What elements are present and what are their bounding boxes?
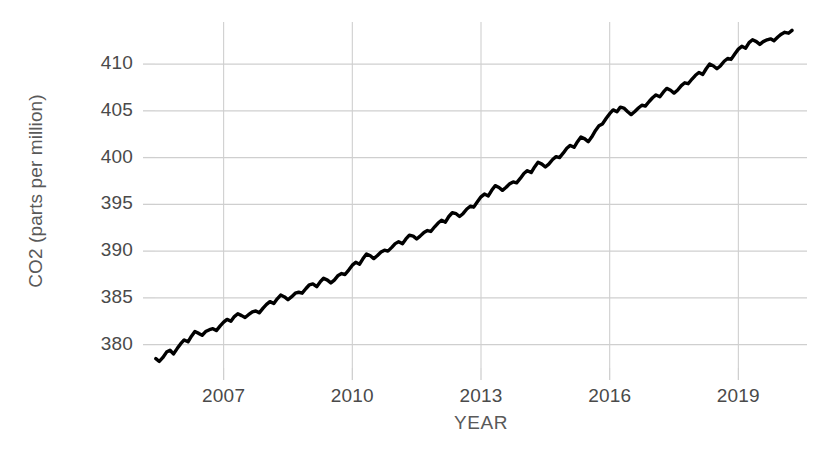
x-tick-label: 2016: [570, 385, 650, 407]
series-line-0: [156, 30, 792, 361]
x-tick-label: 2007: [184, 385, 264, 407]
x-tick-label: 2019: [698, 385, 778, 407]
x-tick-label: 2010: [312, 385, 392, 407]
y-tick-label: 410: [73, 52, 133, 74]
x-tick-label: 2013: [441, 385, 521, 407]
y-tick-label: 385: [73, 286, 133, 308]
y-tick-label: 400: [73, 146, 133, 168]
y-tick-label: 405: [73, 99, 133, 121]
y-tick-label: 390: [73, 239, 133, 261]
y-tick-label: 380: [73, 333, 133, 355]
y-tick-label: 395: [73, 192, 133, 214]
chart-figure: CO2 (parts per million) YEAR 38038539039…: [0, 0, 834, 464]
